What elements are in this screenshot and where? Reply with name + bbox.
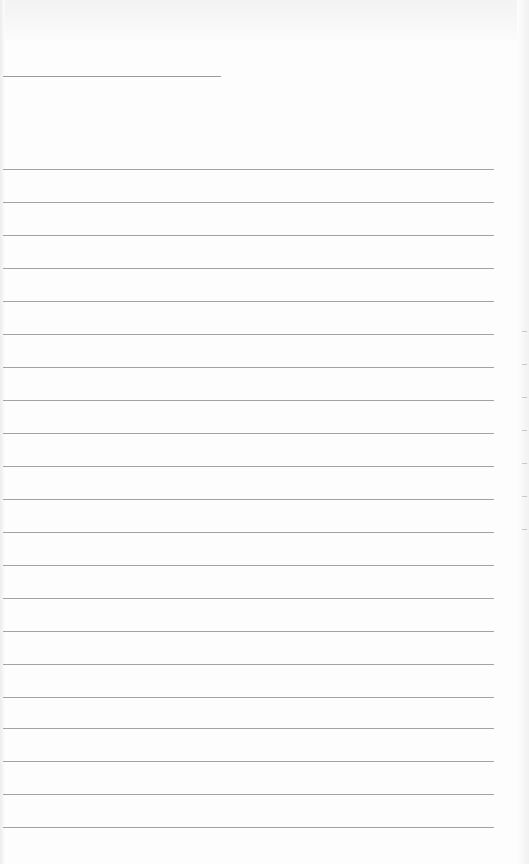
ruled-line (3, 728, 494, 729)
edge-tick (522, 430, 527, 431)
edge-tick (522, 331, 527, 332)
ruled-line (3, 367, 494, 368)
ruled-line (3, 565, 494, 566)
ruled-line (3, 400, 494, 401)
ruled-line (3, 268, 494, 269)
ruled-line (3, 202, 494, 203)
ruled-line (3, 794, 494, 795)
ruled-line (3, 827, 494, 828)
ruled-line (3, 631, 494, 632)
ruled-line (3, 697, 494, 698)
page-top-shadow (0, 0, 529, 40)
ruled-line (3, 235, 494, 236)
ruled-line (3, 761, 494, 762)
page-left-edge (0, 0, 5, 864)
edge-tick (522, 463, 527, 464)
ruled-line (3, 433, 494, 434)
ruled-line (3, 169, 494, 170)
ruled-line (3, 532, 494, 533)
ruled-line (3, 301, 494, 302)
edge-tick (522, 364, 527, 365)
edge-tick (522, 529, 527, 530)
ruled-line (3, 466, 494, 467)
header-line (3, 76, 221, 77)
ruled-line (3, 598, 494, 599)
edge-tick (522, 397, 527, 398)
ruled-line (3, 334, 494, 335)
ruled-line (3, 664, 494, 665)
page-right-edge (517, 0, 529, 864)
ruled-line (3, 499, 494, 500)
edge-tick (522, 496, 527, 497)
